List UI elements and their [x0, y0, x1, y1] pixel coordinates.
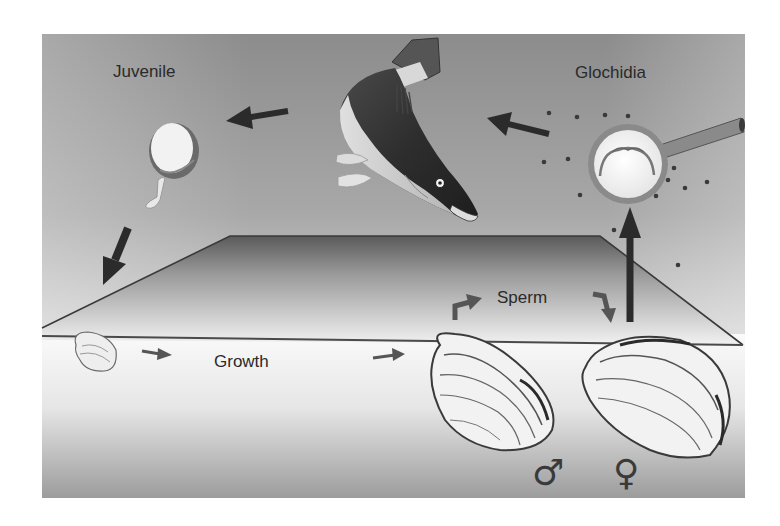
label-glochidia: Glochidia: [575, 63, 646, 83]
label-sperm: Sperm: [497, 288, 547, 308]
label-juvenile: Juvenile: [113, 62, 175, 82]
label-growth: Growth: [214, 352, 269, 372]
female-symbol: ♀: [613, 455, 639, 491]
male-symbol: ♂: [532, 455, 564, 491]
